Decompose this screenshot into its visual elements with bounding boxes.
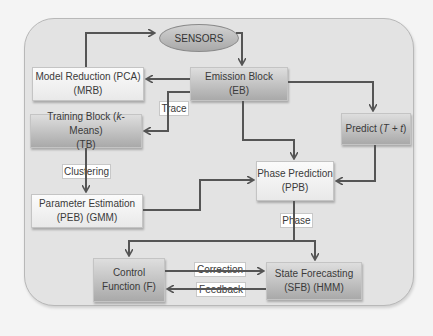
predict-close: ) (403, 123, 406, 134)
predict-block: Predict (T + t) (341, 113, 411, 145)
clustering-label: Clustering (62, 164, 111, 179)
state-forecasting-block: State Forecasting(SFB) (HMM) (266, 262, 362, 300)
tb-abbr: (TB) (31, 138, 141, 152)
training-block: Training Block (k-Means)(TB) (30, 114, 142, 148)
ppb-abbr: (PPB) (257, 181, 333, 195)
parameter-estimation-block: Parameter Estimation(PEB) (GMM) (31, 194, 143, 228)
predict-expr: T + t (383, 123, 403, 134)
phase-prediction-block: Phase Prediction(PPB) (256, 161, 334, 201)
mrb-title: Model Reduction (PCA) (35, 70, 140, 84)
ppb-title: Phase Prediction (257, 167, 333, 181)
phase-label: Phase (280, 213, 313, 228)
feedback-label: Feedback (196, 282, 246, 297)
eb-abbr: (EB) (205, 84, 273, 98)
emission-block: Emission Block(EB) (190, 67, 288, 101)
model-reduction-block: Model Reduction (PCA)(MRB) (32, 67, 144, 101)
tb-title-a: Training Block ( (47, 111, 116, 122)
sfb-title: State Forecasting (275, 267, 353, 281)
trace-label: Trace (159, 101, 189, 116)
predict-label: Predict ( (346, 123, 383, 134)
sensors-node: SENSORS (159, 24, 239, 52)
correction-label: Correction (194, 262, 246, 277)
peb-title: Parameter Estimation (39, 197, 135, 211)
cf-abbr: Function (F) (102, 280, 156, 294)
control-function-block: ControlFunction (F) (93, 258, 165, 302)
peb-abbr: (PEB) (GMM) (39, 211, 135, 225)
cf-title: Control (102, 266, 156, 280)
sfb-abbr: (SFB) (HMM) (275, 281, 353, 295)
mrb-abbr: (MRB) (35, 84, 140, 98)
eb-title: Emission Block (205, 70, 273, 84)
sensors-label: SENSORS (175, 33, 224, 44)
